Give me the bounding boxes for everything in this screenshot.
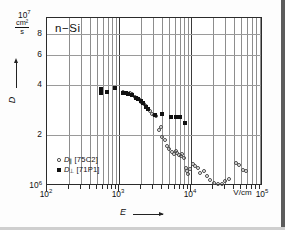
data-point-D-parallel [196,166,200,170]
x-tick-mark [233,185,234,189]
x-tick-mark [161,185,162,189]
data-point-D-parallel [244,169,248,173]
y-axis-arrow [16,62,17,88]
legend-label-d-perpendicular: D⊥ [64,165,74,176]
x-tick-mark [251,185,252,189]
gridline-vertical [119,18,120,184]
scan-bottom-strip [0,227,285,230]
gridline-vertical [247,18,248,184]
data-point-D-parallel [237,163,241,167]
gridline-vertical [191,18,192,184]
legend-item-d-perpendicular: D⊥ [71P1] [54,165,100,175]
gridline-vertical [252,18,253,184]
legend-ref-d-parallel: [75C2] [74,155,98,165]
gridline-vertical [188,18,189,184]
x-tick-mark [255,185,256,189]
x-tick-mark [80,185,81,189]
gridline-horizontal [47,135,261,136]
data-point-D-perpendicular [99,87,103,91]
x-tick-mark [168,185,169,189]
x-tick-mark [46,185,47,191]
data-point-D-parallel [202,169,206,173]
x-tick-mark [140,185,141,189]
x-tick-mark [96,185,97,189]
x-tick-mark [89,185,90,189]
data-point-D-perpendicular [146,107,150,111]
data-point-D-perpendicular [99,91,103,95]
legend-ref-d-perpendicular: [71P1] [76,165,99,175]
x-tick-mark [187,185,188,189]
x-tick-mark [107,185,108,189]
data-point-D-parallel [186,172,190,176]
gridline-vertical [225,18,226,184]
data-point-D-parallel [163,138,167,142]
x-tick-mark [115,185,116,189]
x-tick-mark [246,185,247,189]
x-tick-mark [240,185,241,189]
data-point-D-perpendicular [105,90,109,94]
gridline-vertical [260,18,261,184]
x-axis-unit: V/cm [233,188,251,197]
y-tick-label: 8 [24,28,42,38]
gridline-vertical [116,18,117,184]
y-axis-title: D [7,97,17,104]
data-point-D-parallel [182,156,186,160]
legend-item-d-parallel: D∥ [75C2] [54,155,100,165]
data-point-D-parallel [188,167,192,171]
x-tick-mark [190,185,191,191]
x-tick-mark [111,185,112,189]
open-circle-icon [54,158,64,162]
data-point-D-perpendicular [160,112,164,116]
gridline-vertical [180,18,181,184]
y-tick-label: 4 [24,79,42,89]
gridline-horizontal [47,55,261,56]
x-tick-mark [118,185,119,191]
gridline-vertical [112,18,113,184]
y-tick-label: 6 [24,49,42,59]
plot-area: n−Si D∥ [75C2] D⊥ [71P1] [46,17,262,185]
gridline-vertical [169,18,170,184]
scan-edge-strip [281,0,285,230]
data-point-D-perpendicular [153,113,157,117]
filled-square-icon [54,168,64,172]
data-point-D-parallel [227,177,231,181]
x-tick-mark [68,185,69,189]
gridline-vertical [234,18,235,184]
gridline-vertical [153,18,154,184]
data-point-D-perpendicular [178,115,182,119]
x-tick-mark [152,185,153,189]
gridline-vertical [175,18,176,184]
x-tick-mark [102,185,103,189]
data-point-D-perpendicular [169,115,173,119]
x-tick-mark [174,185,175,189]
gridline-horizontal [47,85,261,86]
data-point-D-perpendicular [183,121,187,125]
x-axis-title: E [120,207,126,217]
x-tick-label: 105 [256,188,269,199]
data-point-D-perpendicular [113,86,117,90]
gridline-horizontal [47,34,261,35]
gridline-vertical [213,18,214,184]
x-axis-arrow [133,214,163,215]
x-tick-mark [259,185,260,189]
gridline-vertical [162,18,163,184]
x-tick-mark [212,185,213,189]
x-tick-mark [224,185,225,189]
gridline-vertical [108,18,109,184]
gridline-vertical [241,18,242,184]
x-tick-mark [179,185,180,189]
x-tick-mark [183,185,184,189]
legend: D∥ [75C2] D⊥ [71P1] [54,155,100,175]
y-tick-label: 2 [24,129,42,139]
gridline-vertical [103,18,104,184]
chart-root: 107 cm² s D E n−Si D∥ [75C2] D⊥ [71P1] 8… [0,0,285,230]
data-point-D-parallel [159,125,163,129]
gridline-vertical [256,18,257,184]
